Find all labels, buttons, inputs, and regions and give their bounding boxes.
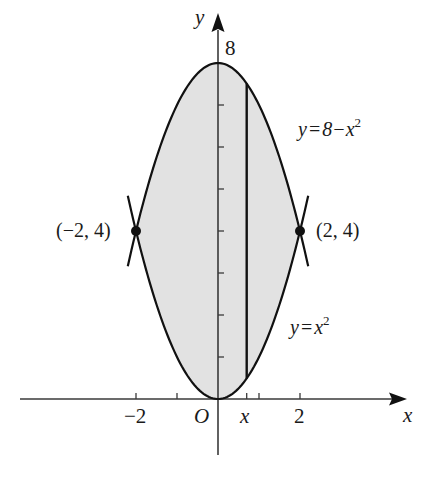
equation-upper-exp: 2 <box>355 115 362 130</box>
intersection-point-right <box>295 226 305 236</box>
equation-upper-rhs: 8−x <box>322 118 354 140</box>
point-label-right: (2, 4) <box>316 219 359 242</box>
point-label-left: (−2, 4) <box>56 219 111 242</box>
y-axis-arrow-icon <box>212 13 225 32</box>
equation-lower-label: y=x2 <box>288 313 330 339</box>
x-tick-label-2: 2 <box>294 404 305 428</box>
strip-x-label: x <box>239 404 250 428</box>
x-tick-label-neg2: −2 <box>124 404 146 428</box>
equation-upper-lhs: y <box>296 118 307 141</box>
x-axis-label: x <box>402 403 413 427</box>
y-tick-label-8: 8 <box>225 36 236 60</box>
equation-lower-eq: = <box>301 316 312 338</box>
equation-lower-exp: 2 <box>323 313 330 328</box>
equation-upper-eq: = <box>309 118 320 140</box>
equation-lower-rhs: x <box>313 316 323 338</box>
equation-upper-label: y=8−x2 <box>296 115 361 141</box>
equation-lower-lhs: y <box>288 316 299 339</box>
origin-label: O <box>194 404 209 428</box>
y-axis-label: y <box>193 5 205 29</box>
intersection-point-left <box>131 226 141 236</box>
region-between-parabolas-diagram: y x 8 O −2 2 x (−2, 4) (2, 4) y=8−x2 y=x… <box>0 0 448 483</box>
